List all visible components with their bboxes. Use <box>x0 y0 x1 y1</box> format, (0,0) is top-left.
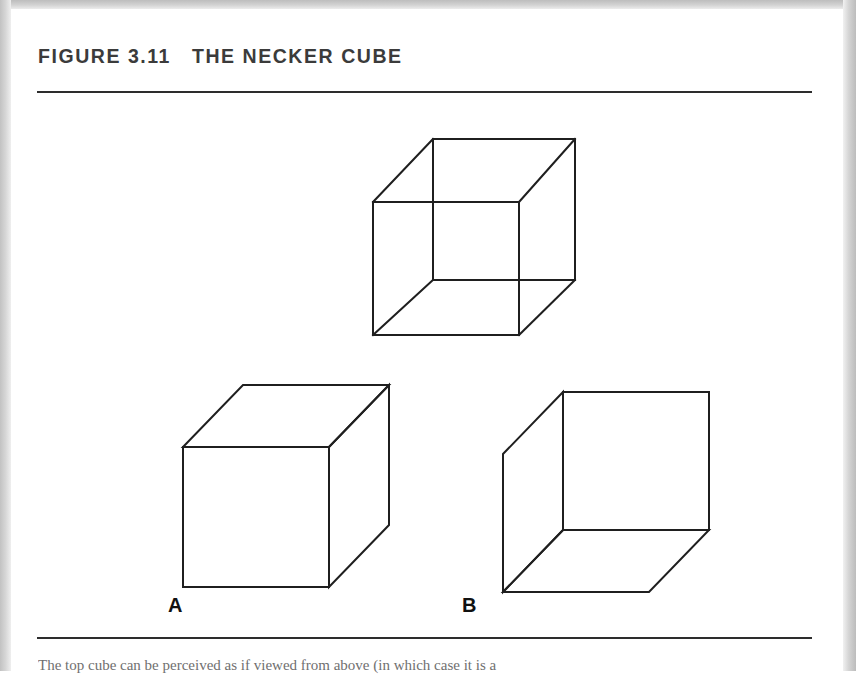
scan-border-left <box>0 0 11 671</box>
necker-cube-illustration <box>22 104 832 624</box>
necker-cube-wireframe <box>373 139 575 335</box>
necker-back-square <box>433 139 575 280</box>
necker-edge-bottom-left <box>373 280 433 335</box>
necker-edge-top-right <box>519 139 575 202</box>
necker-edge-bottom-right <box>519 280 575 335</box>
cube-a-shape <box>183 385 389 587</box>
figure-artwork <box>22 104 832 624</box>
necker-edge-top-left <box>373 139 433 202</box>
cube-b-shape <box>503 392 709 592</box>
figure-caption: The top cube can be perceived as if view… <box>38 654 818 678</box>
cube-b-back-face <box>563 392 709 530</box>
scan-border-right <box>843 0 856 671</box>
cube-a-right-face <box>329 385 389 587</box>
figure-top-rule <box>37 91 812 93</box>
figure-bottom-rule <box>37 637 812 639</box>
figure-title: FIGURE 3.11 THE NECKER CUBE <box>38 45 403 68</box>
scan-border-top <box>0 0 856 9</box>
panel-label-a: A <box>168 595 182 615</box>
figure-card: FIGURE 3.11 THE NECKER CUBE <box>11 9 843 671</box>
panel-label-b: B <box>462 595 476 615</box>
cube-a-front-face <box>183 447 329 587</box>
cube-b-bottom-face <box>503 530 709 592</box>
